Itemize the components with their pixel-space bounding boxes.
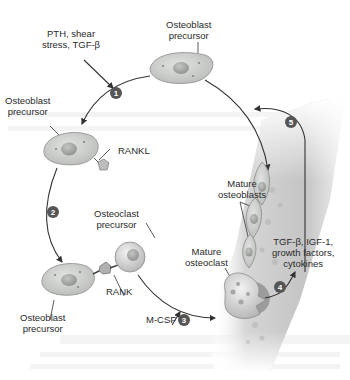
step-2-badge: 2 — [47, 206, 59, 218]
osteoblast-precursor-bottom — [42, 264, 101, 296]
rank-rankl-complex — [99, 262, 118, 274]
top-osteoblast-precursor-label: Osteoblast precursor — [166, 19, 211, 41]
left-osteoblast-precursor-label: Osteoblast precursor — [5, 95, 50, 117]
svg-text:1: 1 — [114, 89, 119, 98]
rankl-receptor — [98, 159, 109, 170]
step-1-badge: 1 — [110, 87, 122, 99]
step-3-badge: 3 — [178, 314, 190, 326]
osteoblast-precursor-left — [44, 132, 109, 170]
mature-osteoclast-label: Mature osteoclast — [185, 246, 228, 268]
rankl-label: RANKL — [118, 145, 150, 156]
bottom-osteoblast-precursor-label: Osteoblast precursor — [20, 312, 65, 334]
osteoclast-precursor-label: Osteoclast precursor — [94, 208, 139, 230]
svg-text:3: 3 — [182, 316, 187, 325]
osteoclast-precursor — [115, 242, 145, 272]
bone-remodeling-diagram: 1 2 3 4 5 PTH, shear stress, TGF-β Osteo… — [0, 0, 350, 380]
osteoblast-precursor-top — [150, 53, 213, 84]
arrow-step3 — [138, 275, 215, 318]
mature-osteoblasts-label: Mature osteoblasts — [218, 178, 266, 200]
stimuli-label: PTH, shear stress, TGF-β — [42, 28, 100, 50]
step-5-badge: 5 — [285, 116, 297, 128]
rank-label: RANK — [106, 286, 132, 297]
arrow-stimuli — [84, 60, 113, 88]
svg-text:4: 4 — [278, 283, 283, 292]
mcsf-label: M-CSF — [146, 314, 176, 325]
growth-factors-label: TGF-β, IGF-1, growth factors, cytokines — [272, 236, 334, 269]
step-4-badge: 4 — [274, 281, 286, 293]
svg-text:5: 5 — [289, 118, 294, 127]
svg-text:2: 2 — [51, 208, 56, 217]
